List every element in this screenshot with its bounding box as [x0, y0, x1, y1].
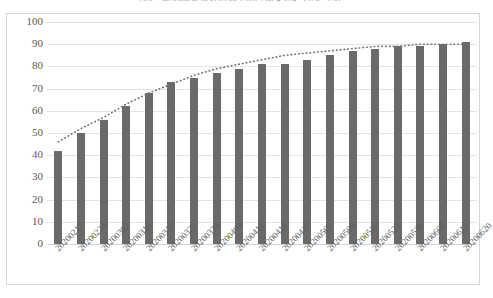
bar	[371, 49, 379, 244]
y-axis-tick-label: 80	[9, 60, 43, 71]
bar	[213, 73, 221, 244]
y-axis-tick-label: 90	[9, 38, 43, 49]
plot-area	[47, 22, 477, 244]
bar	[303, 60, 311, 244]
bar	[258, 64, 266, 244]
chart-title: 图1 新冠肺炎累计治愈率随时间变化趋势图（%）	[0, 0, 486, 1]
y-axis-tick-label: 0	[9, 238, 43, 249]
y-axis-tick-label: 100	[9, 16, 43, 27]
bar	[439, 44, 447, 244]
y-axis-tick-label: 50	[9, 127, 43, 138]
bar	[54, 151, 62, 244]
chart-plot-frame: 0102030405060708090100 20200217202002242…	[6, 13, 480, 285]
bar	[462, 42, 470, 244]
x-axis: 2020021720200224202003022020031020200316…	[47, 246, 477, 298]
y-axis-tick-label: 20	[9, 194, 43, 205]
y-axis-tick-label: 70	[9, 83, 43, 94]
bar	[326, 55, 334, 244]
bar	[281, 64, 289, 244]
y-axis-tick-label: 30	[9, 171, 43, 182]
bar-series	[47, 22, 477, 244]
y-axis: 0102030405060708090100	[7, 22, 43, 244]
y-axis-tick-label: 40	[9, 149, 43, 160]
bar	[235, 69, 243, 244]
bar	[349, 51, 357, 244]
y-axis-tick-label: 60	[9, 105, 43, 116]
bar	[190, 78, 198, 245]
y-axis-tick-label: 10	[9, 216, 43, 227]
bar	[416, 46, 424, 244]
bar	[394, 46, 402, 244]
